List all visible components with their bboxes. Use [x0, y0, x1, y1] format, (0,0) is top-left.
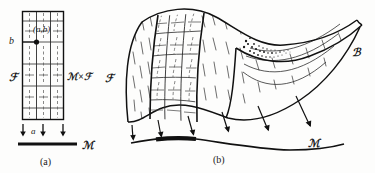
panel-b-projection-arrows	[130, 96, 311, 141]
foliation-figure: b (a,b) ℱ ℳ×ℱ a ℳ (a) ℱ ℬ ℳ (b)	[0, 0, 375, 173]
label-bundle-b: ℬ	[352, 47, 361, 58]
label-foliation-a: ℱ	[9, 72, 18, 83]
label-base-manifold-a: ℳ	[82, 140, 94, 151]
label-base-manifold-b: ℳ	[308, 138, 320, 149]
label-point-a-b: (a,b)	[33, 25, 50, 34]
arrow	[158, 120, 164, 138]
arrow	[130, 125, 136, 141]
caption-b: (b)	[213, 155, 225, 165]
label-product-manifold: ℳ×ℱ	[67, 72, 92, 82]
label-b-coordinate: b	[9, 36, 14, 46]
label-a-coordinate: a	[31, 127, 36, 136]
arrow	[188, 116, 195, 136]
panel-b-base-thick-segment	[156, 138, 196, 139]
arrow	[222, 112, 230, 133]
panel-b-group	[126, 9, 362, 150]
panel-a-projection-arrows	[20, 124, 66, 136]
caption-a: (a)	[40, 157, 51, 167]
panel-b-surface-outline	[126, 9, 362, 122]
label-foliation-b: ℱ	[105, 73, 114, 84]
arrow	[296, 96, 311, 127]
